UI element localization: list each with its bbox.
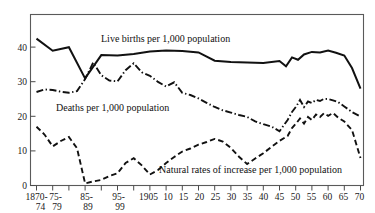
y-tick-label-30: 30: [18, 77, 28, 87]
x-label-89: 89: [83, 202, 93, 212]
series-deaths: [37, 63, 361, 132]
x-label-1905: 1905: [139, 192, 158, 202]
x-label-60: 60: [323, 192, 333, 202]
x-label-99: 99: [115, 202, 125, 212]
x-label-55: 55: [307, 192, 317, 202]
annotation-deaths: Deaths per 1,000 population: [56, 102, 169, 113]
x-label-10: 10: [163, 192, 173, 202]
x-label-65: 65: [339, 192, 349, 202]
y-tick-label-40: 40: [18, 43, 28, 53]
chart-container: 0 10 20 30 40: [0, 0, 375, 213]
y-tick-label-20: 20: [18, 112, 28, 122]
x-label-1870: 1870-: [25, 192, 47, 202]
x-axis-ticks: [37, 186, 361, 191]
x-label-1874: 74: [36, 202, 46, 212]
x-label-75: 75-: [49, 192, 62, 202]
x-label-85: 85-: [80, 192, 93, 202]
x-label-20: 20: [195, 192, 205, 202]
x-label-45: 45: [275, 192, 285, 202]
y-tick-label-0: 0: [22, 181, 27, 191]
annotation-natural-increase: Natural rates of increase per 1,000 popu…: [159, 164, 342, 175]
x-label-70: 70: [355, 192, 365, 202]
x-label-50: 50: [291, 192, 301, 202]
y-axis-ticks: [31, 47, 36, 185]
x-label-95: 95-: [112, 192, 125, 202]
x-label-35: 35: [243, 192, 253, 202]
x-label-30: 30: [227, 192, 237, 202]
x-label-40: 40: [259, 192, 269, 202]
x-label-79: 79: [52, 202, 62, 212]
x-label-15: 15: [179, 192, 189, 202]
chart-plot-area: 0 10 20 30 40: [0, 0, 375, 213]
series-live-births: [37, 39, 361, 89]
x-label-25: 25: [211, 192, 221, 202]
annotation-live-births: Live births per 1,000 population: [101, 33, 230, 44]
y-tick-label-10: 10: [18, 146, 28, 156]
